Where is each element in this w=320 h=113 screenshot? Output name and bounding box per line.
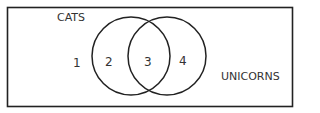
set-label-unicorns: UNICORNS bbox=[221, 71, 280, 82]
cats-circle bbox=[92, 17, 170, 95]
unicorns-circle bbox=[128, 17, 206, 95]
region-outside-label: 1 bbox=[73, 57, 81, 69]
region-unicorns-only-label: 4 bbox=[179, 55, 187, 67]
region-cats-only-label: 2 bbox=[105, 56, 113, 68]
region-intersection-label: 3 bbox=[144, 56, 152, 68]
set-label-cats: CATS bbox=[57, 12, 85, 23]
